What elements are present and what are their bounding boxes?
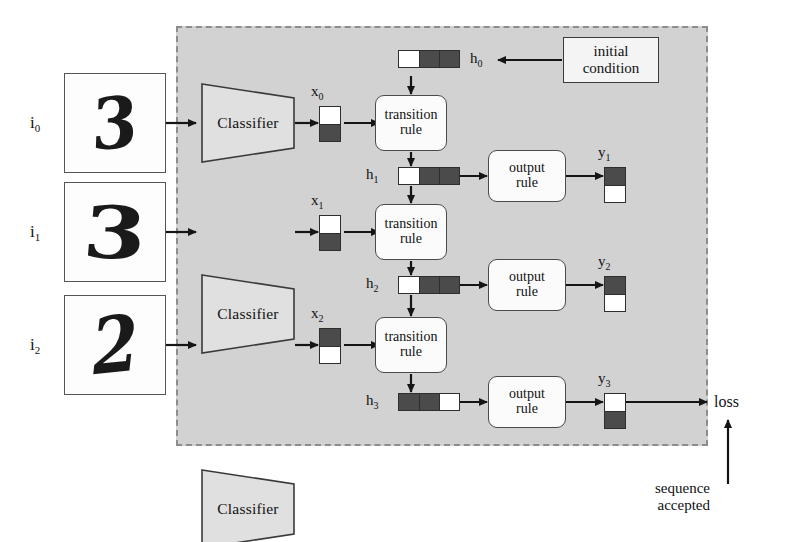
output-rule-1[interactable]: output rule bbox=[488, 259, 566, 311]
transition-rule-1[interactable]: transition rule bbox=[375, 204, 447, 260]
classifier-1[interactable]: Classifier bbox=[200, 273, 296, 355]
classifier-label-2: Classifier bbox=[200, 468, 296, 542]
loss-label: loss bbox=[714, 393, 739, 411]
classifier-2[interactable]: Classifier bbox=[200, 468, 296, 542]
transition-rule-line1: transition bbox=[385, 108, 438, 123]
x-vector-2 bbox=[319, 328, 341, 364]
vector-cell bbox=[419, 168, 439, 184]
transition-rule-line1: transition bbox=[385, 217, 438, 232]
vector-cell bbox=[439, 394, 459, 410]
vector-cell bbox=[399, 277, 419, 293]
transition-rule-line2: rule bbox=[400, 345, 422, 360]
y-vector-label-3: y3 bbox=[598, 370, 611, 389]
vector-cell bbox=[320, 346, 340, 363]
vector-cell bbox=[439, 51, 459, 67]
initial-condition-line2: condition bbox=[583, 60, 640, 77]
x-vector-label-2: x2 bbox=[311, 305, 324, 324]
transition-rule-0[interactable]: transition rule bbox=[375, 95, 447, 151]
classifier-label-1: Classifier bbox=[200, 273, 296, 355]
y-vector-1 bbox=[604, 167, 626, 203]
y-vector-2 bbox=[604, 276, 626, 312]
transition-rule-line1: transition bbox=[385, 330, 438, 345]
vector-cell bbox=[605, 394, 625, 411]
output-rule-line1: output bbox=[509, 387, 545, 402]
vector-cell bbox=[605, 411, 625, 428]
figure-canvas: i0 3 i1 3 i2 2 Classifier Classifier Cla… bbox=[0, 0, 788, 542]
digit-glyph-0: 3 bbox=[64, 73, 166, 173]
classifier-0[interactable]: Classifier bbox=[200, 82, 296, 164]
vector-cell bbox=[320, 329, 340, 346]
y-vector-label-2: y2 bbox=[598, 253, 611, 272]
h-vector-label-1: h1 bbox=[366, 166, 379, 185]
vector-cell bbox=[419, 394, 439, 410]
vector-cell bbox=[320, 107, 340, 124]
output-rule-line1: output bbox=[509, 270, 545, 285]
vector-cell bbox=[399, 394, 419, 410]
vector-cell bbox=[439, 277, 459, 293]
x-vector-label-0: x0 bbox=[311, 83, 324, 102]
input-label-0: i0 bbox=[30, 113, 40, 134]
output-rule-line2: rule bbox=[516, 285, 538, 300]
vector-cell bbox=[399, 168, 419, 184]
vector-cell bbox=[419, 51, 439, 67]
vector-cell bbox=[605, 168, 625, 185]
h-vector-label-2: h2 bbox=[366, 275, 379, 294]
h-vector-label-0: h0 bbox=[470, 50, 483, 69]
input-digit-0: 3 bbox=[64, 73, 166, 173]
initial-condition-box[interactable]: initial condition bbox=[563, 37, 659, 83]
output-rule-line1: output bbox=[509, 161, 545, 176]
output-rule-2[interactable]: output rule bbox=[488, 376, 566, 428]
transition-rule-line2: rule bbox=[400, 123, 422, 138]
h-vector-1 bbox=[398, 167, 460, 185]
vector-cell bbox=[399, 51, 419, 67]
y-vector-3 bbox=[604, 393, 626, 429]
transition-rule-2[interactable]: transition rule bbox=[375, 317, 447, 373]
h-vector-0 bbox=[398, 50, 460, 68]
x-vector-0 bbox=[319, 106, 341, 142]
vector-cell bbox=[605, 185, 625, 202]
input-digit-1: 3 bbox=[64, 182, 166, 282]
initial-condition-line1: initial bbox=[594, 43, 629, 60]
classifier-label-0: Classifier bbox=[200, 82, 296, 164]
sequence-accepted-label: sequence accepted bbox=[612, 480, 710, 515]
sequence-accepted-line2: accepted bbox=[612, 497, 710, 514]
input-label-1: i1 bbox=[30, 222, 40, 243]
vector-cell bbox=[439, 168, 459, 184]
vector-cell bbox=[605, 294, 625, 311]
x-vector-label-1: x1 bbox=[311, 192, 324, 211]
vector-cell bbox=[320, 216, 340, 233]
h-vector-label-3: h3 bbox=[366, 392, 379, 411]
vector-cell bbox=[320, 233, 340, 250]
h-vector-3 bbox=[398, 393, 460, 411]
transition-rule-line2: rule bbox=[400, 232, 422, 247]
vector-cell bbox=[320, 124, 340, 141]
vector-cell bbox=[419, 277, 439, 293]
digit-glyph-2: 2 bbox=[64, 295, 166, 395]
x-vector-1 bbox=[319, 215, 341, 251]
y-vector-label-1: y1 bbox=[598, 144, 611, 163]
output-rule-0[interactable]: output rule bbox=[488, 150, 566, 202]
sequence-accepted-line1: sequence bbox=[612, 480, 710, 497]
h-vector-2 bbox=[398, 276, 460, 294]
vector-cell bbox=[605, 277, 625, 294]
output-rule-line2: rule bbox=[516, 402, 538, 417]
digit-glyph-1: 3 bbox=[64, 182, 166, 282]
output-rule-line2: rule bbox=[516, 176, 538, 191]
input-label-2: i2 bbox=[30, 335, 40, 356]
input-digit-2: 2 bbox=[64, 295, 166, 395]
